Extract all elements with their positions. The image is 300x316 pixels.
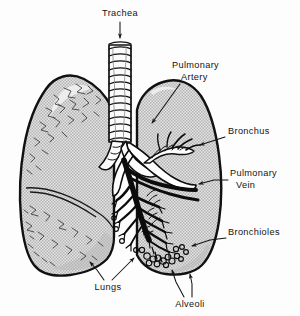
trachea bbox=[109, 42, 131, 142]
label-pulmonary-vein-line2: Vein bbox=[236, 180, 255, 190]
label-pulmonary-artery-line2: Artery bbox=[181, 72, 208, 82]
label-bronchus: Bronchus bbox=[228, 126, 270, 136]
label-bronchioles: Bronchioles bbox=[228, 227, 280, 237]
diagram-canvas: Trachea Pulmonary Artery Bronchus Pulmon… bbox=[0, 0, 300, 316]
label-alveoli-group: Alveoli bbox=[172, 270, 205, 309]
label-alveoli: Alveoli bbox=[175, 299, 205, 309]
label-trachea-group: Trachea bbox=[102, 8, 138, 38]
respiratory-system-figure: Trachea Pulmonary Artery Bronchus Pulmon… bbox=[0, 0, 300, 316]
label-pulmonary-artery-line1: Pulmonary bbox=[172, 60, 219, 70]
leader-lungs-right bbox=[112, 258, 134, 280]
leader-alveoli-right bbox=[190, 274, 192, 297]
label-pulmonary-vein-line1: Pulmonary bbox=[230, 168, 277, 178]
label-lungs: Lungs bbox=[95, 282, 122, 292]
left-lung bbox=[20, 76, 114, 276]
label-trachea: Trachea bbox=[102, 8, 138, 18]
